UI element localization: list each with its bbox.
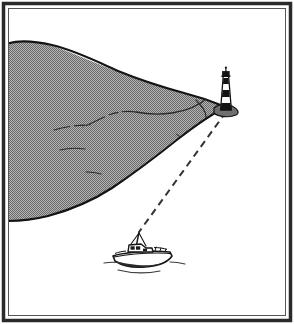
lighthouse-band-1 [223, 78, 229, 84]
lighthouse-finial-knob [225, 67, 227, 69]
nautical-scene-svg [0, 0, 294, 324]
boat-window-a [131, 246, 135, 249]
boat-window-c [143, 249, 147, 252]
lighthouse-band-2 [222, 90, 230, 97]
illustration-canvas: Taking a bearing on a lighthouse from a … [0, 0, 294, 324]
lighthouse-band-3 [221, 103, 232, 110]
boat-window-b [136, 246, 140, 249]
lighthouse-gallery [221, 75, 230, 77]
